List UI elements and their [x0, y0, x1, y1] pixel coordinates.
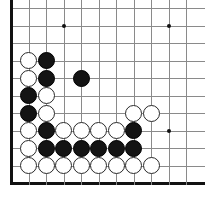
- white-stone[interactable]: [55, 157, 72, 174]
- grid-line-vertical: [169, 0, 170, 185]
- white-stone[interactable]: [20, 52, 37, 69]
- hoshi-star-point: [62, 24, 66, 28]
- grid-line-vertical: [186, 0, 187, 185]
- black-stone[interactable]: [20, 105, 37, 122]
- white-stone[interactable]: [55, 122, 72, 139]
- white-stone[interactable]: [20, 70, 37, 87]
- black-stone[interactable]: [90, 140, 107, 157]
- black-stone[interactable]: [108, 140, 125, 157]
- black-stone[interactable]: [38, 140, 55, 157]
- black-stone[interactable]: [38, 122, 55, 139]
- grid-line-horizontal: [10, 8, 205, 9]
- white-stone[interactable]: [20, 122, 37, 139]
- board-border-left: [10, 0, 13, 185]
- hoshi-star-point: [167, 24, 171, 28]
- grid-line-horizontal: [10, 26, 205, 27]
- black-stone[interactable]: [125, 122, 142, 139]
- white-stone[interactable]: [108, 157, 125, 174]
- black-stone[interactable]: [20, 87, 37, 104]
- white-stone[interactable]: [125, 157, 142, 174]
- white-stone[interactable]: [90, 157, 107, 174]
- black-stone[interactable]: [38, 52, 55, 69]
- black-stone[interactable]: [73, 70, 90, 87]
- white-stone[interactable]: [20, 157, 37, 174]
- white-stone[interactable]: [38, 87, 55, 104]
- board-border-bottom: [10, 182, 205, 185]
- white-stone[interactable]: [38, 105, 55, 122]
- white-stone[interactable]: [143, 157, 160, 174]
- white-stone[interactable]: [73, 122, 90, 139]
- black-stone[interactable]: [73, 140, 90, 157]
- grid-line-horizontal: [10, 43, 205, 44]
- goban-grid[interactable]: [0, 0, 205, 204]
- white-stone[interactable]: [90, 122, 107, 139]
- white-stone[interactable]: [108, 122, 125, 139]
- white-stone[interactable]: [73, 157, 90, 174]
- black-stone[interactable]: [38, 70, 55, 87]
- white-stone[interactable]: [125, 105, 142, 122]
- go-board-diagram: [0, 0, 205, 204]
- black-stone[interactable]: [125, 140, 142, 157]
- white-stone[interactable]: [38, 157, 55, 174]
- black-stone[interactable]: [55, 140, 72, 157]
- hoshi-star-point: [167, 129, 171, 133]
- white-stone[interactable]: [20, 140, 37, 157]
- white-stone[interactable]: [143, 105, 160, 122]
